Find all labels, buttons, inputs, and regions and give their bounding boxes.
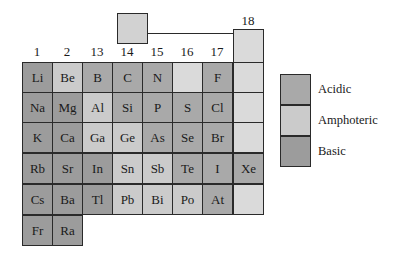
legend-swatch-basic [280,136,311,167]
element-k: K [22,122,53,153]
element-mg: Mg [52,92,83,123]
legend-label-acidic: Acidic [318,82,351,97]
element-al: Al [82,92,113,123]
group-label-13: 13 [82,44,112,60]
element-cs: Cs [22,184,53,215]
connector-line [148,33,233,34]
element-s: S [172,92,203,123]
element-b: B [82,62,113,93]
element-si: Si [112,92,143,123]
element-f: F [202,62,233,93]
element-empty [233,92,264,123]
group-label-1: 1 [22,44,52,60]
element-p: P [142,92,173,123]
element-tl: Tl [82,184,113,215]
group-label-16: 16 [172,44,202,60]
element-empty [172,62,203,93]
element-ga: Ga [82,122,113,153]
legend-label-amphoteric: Amphoteric [318,113,378,128]
element-li: Li [22,62,53,93]
element-sn: Sn [112,153,143,184]
group-label-17: 17 [202,44,232,60]
element-xe: Xe [233,153,264,184]
element-rb: Rb [22,153,53,184]
legend-swatch-amphoteric [280,105,311,136]
element-c: C [112,62,143,93]
group-label-14: 14 [112,44,142,60]
element-na: Na [22,92,53,123]
element-empty [233,62,264,93]
element-ba: Ba [52,184,83,215]
element-ge: Ge [112,122,143,153]
element-as: As [142,122,173,153]
legend-label-basic: Basic [318,144,346,159]
group-label-2: 2 [52,44,82,60]
hydrogen-box [117,13,148,44]
element-ca: Ca [52,122,83,153]
element-br: Br [202,122,233,153]
element-po: Po [172,184,203,215]
element-fr: Fr [22,215,53,246]
group-18-header-box [233,29,264,62]
element-te: Te [172,153,203,184]
element-ra: Ra [52,215,83,246]
element-sr: Sr [52,153,83,184]
element-at: At [202,184,233,215]
element-cl: Cl [202,92,233,123]
element-in: In [82,153,113,184]
element-i: I [202,153,233,184]
element-sb: Sb [142,153,173,184]
group-label-18: 18 [233,13,263,29]
element-be: Be [52,62,83,93]
element-bi: Bi [142,184,173,215]
element-n: N [142,62,173,93]
element-empty [233,184,264,215]
element-se: Se [172,122,203,153]
element-pb: Pb [112,184,143,215]
legend-swatch-acidic [280,74,311,105]
group-label-15: 15 [142,44,172,60]
element-empty [233,122,264,153]
